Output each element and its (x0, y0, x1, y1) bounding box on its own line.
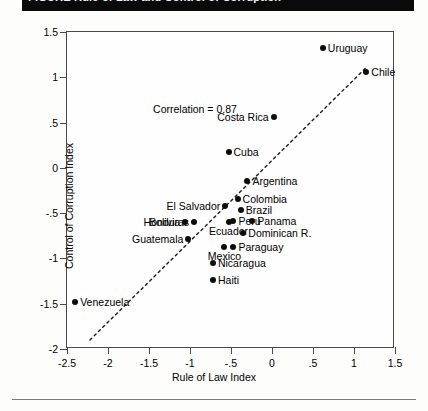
scatter-point[interactable] (244, 178, 250, 184)
x-axis-tick (67, 347, 68, 354)
scatter-point[interactable] (235, 196, 241, 202)
x-axis-tick (190, 347, 191, 354)
y-axis-tick (60, 77, 67, 78)
plot-inner: 1.51.50-.5-1-1.5-2-2.5-2-1.5-1-.50.511.5… (67, 32, 393, 347)
y-axis-tick (60, 123, 67, 124)
scatter-point-label: Bolivia (149, 217, 180, 228)
x-axis-tick-label: -1 (185, 357, 194, 369)
x-axis-tick (272, 347, 273, 354)
scatter-point-label: Uruguay (328, 43, 368, 54)
x-axis-tick-label: -2 (103, 357, 112, 369)
scatter-point-label: Argentina (252, 175, 297, 186)
y-axis-tick-label: 1.5 (43, 26, 58, 38)
scatter-point-label: Cuba (234, 146, 259, 157)
y-axis-tick-label: 0 (52, 162, 58, 174)
y-axis-tick (60, 32, 67, 33)
x-axis-label: Rule of Law Index (0, 371, 428, 383)
scatter-point-label: Costa Rica (217, 112, 268, 123)
scatter-point-label: Dominican R. (248, 228, 311, 239)
y-axis-tick-label: .5 (49, 117, 58, 129)
y-axis-tick-label: -2 (49, 343, 58, 355)
figure-page: FIGURE Rule of Law and Control of Corrup… (0, 0, 428, 411)
x-axis-tick-label: -1.5 (140, 357, 158, 369)
x-axis-tick-label: -.5 (225, 357, 237, 369)
x-axis-tick-label: -2.5 (58, 357, 76, 369)
figure-title-text: FIGURE Rule of Law and Control of Corrup… (28, 0, 281, 3)
scatter-point-label: Nicaragua (218, 258, 266, 269)
y-axis-tick-label: -1.5 (40, 298, 58, 310)
x-axis-tick-label: 1.5 (388, 357, 403, 369)
plot-area: 1.51.50-.5-1-1.5-2-2.5-2-1.5-1-.50.511.5… (66, 31, 394, 348)
scatter-point[interactable] (271, 114, 277, 120)
scatter-point[interactable] (226, 149, 232, 155)
x-axis-tick-label: .5 (309, 357, 318, 369)
y-axis-tick (60, 349, 67, 350)
x-axis-tick (108, 347, 109, 354)
y-axis-tick-label: -.5 (46, 207, 58, 219)
scatter-point-label: Chile (371, 67, 395, 78)
x-axis-tick (313, 347, 314, 354)
x-axis-tick (354, 347, 355, 354)
figure-title-bar: FIGURE Rule of Law and Control of Corrup… (22, 0, 414, 11)
y-axis-tick (60, 304, 67, 305)
x-axis-tick (231, 347, 232, 354)
scatter-point-label: Colombia (243, 193, 287, 204)
scatter-point[interactable] (210, 260, 216, 266)
scatter-point-label: Haiti (218, 275, 239, 286)
x-axis-tick (395, 347, 396, 354)
x-axis-tick-label: 1 (351, 357, 357, 369)
x-axis-tick (149, 347, 150, 354)
scatter-point-label: Paraguay (238, 241, 283, 252)
scatter-point-label: El Salvador (167, 201, 221, 212)
scatter-point-label: Venezuela (80, 297, 129, 308)
x-axis-tick-label: 0 (269, 357, 275, 369)
scatter-point-label: Panama (257, 216, 296, 227)
footer-rule (12, 399, 416, 400)
y-axis-label: Control of Corruption Index (63, 142, 75, 268)
y-axis-tick-label: 1 (52, 71, 58, 83)
scatter-point-label: Guatemala (132, 234, 183, 245)
y-axis-tick-label: -1 (49, 252, 58, 264)
